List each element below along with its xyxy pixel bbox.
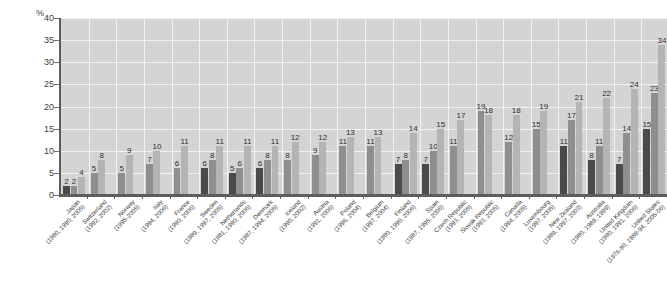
bar-value-label: 11 [216, 137, 224, 146]
category-name: Spain [398, 198, 440, 240]
bar-group: 611 [172, 18, 200, 195]
bar-group: 6811 [254, 18, 282, 195]
bar: 21 [576, 102, 583, 195]
category-years: (1980, 1990, 2006) [375, 203, 417, 245]
bar: 6 [201, 168, 208, 195]
bar-group: 1519 [531, 18, 559, 195]
bar-value-label: 12 [318, 133, 327, 142]
category-name: Norway [107, 198, 136, 227]
bar: 8 [209, 160, 216, 195]
bar: 11 [216, 146, 223, 195]
x-axis-category-label: Denmark(1987, 1994, 2005) [232, 198, 279, 245]
bar-groups: 2245859710611681156116811812912111311137… [61, 18, 667, 195]
category-name: United Kingdom [592, 198, 634, 240]
bar: 11 [560, 146, 567, 195]
bar-value-label: 17 [456, 111, 465, 120]
category-years: (1987, 1995, 2006) [403, 203, 445, 245]
x-axis-category-label: France(1990, 2006) [162, 198, 197, 233]
category-years: (1990, 2006) [166, 203, 196, 233]
bar: 11 [450, 146, 457, 195]
category-name: Australia [564, 198, 606, 240]
bar-group: 71015 [420, 18, 448, 195]
bar: 6 [174, 168, 181, 195]
category-years: (1996, 2004) [332, 203, 362, 233]
bar: 5 [229, 173, 236, 195]
x-axis-category-labels: Japan(1980, 1990, 2005)Switzerland(1992,… [0, 198, 667, 282]
bar-value-label: 11 [180, 137, 188, 146]
bar: 23 [651, 93, 658, 195]
bar: 18 [485, 115, 492, 195]
bar-group: 224 [61, 18, 89, 195]
bar-value-label: 8 [265, 151, 269, 160]
bar: 9 [312, 155, 319, 195]
bar: 11 [596, 146, 603, 195]
bar: 4 [78, 177, 85, 195]
x-axis-category-label: Luxembourg(1997, 2005) [521, 198, 556, 233]
bar: 15 [643, 129, 650, 195]
bar-value-label: 11 [243, 137, 251, 146]
category-years: (1989, 1997, 2005) [182, 203, 224, 245]
x-axis-category-label: Italy(1994, 2006) [134, 198, 169, 233]
y-axis-tick-label: 20 [44, 102, 54, 112]
category-years: (1991, 2006) [305, 203, 335, 233]
x-axis-category-label: Czech Republic(1993, 2005) [432, 198, 473, 239]
bar-value-label: 15 [436, 120, 445, 129]
y-axis-tick-labels: 0510152025303540 [28, 18, 54, 195]
bar-value-label: 8 [285, 151, 289, 160]
bar: 5 [91, 173, 98, 195]
bar: 24 [631, 89, 638, 195]
bar: 11 [181, 146, 188, 195]
bar: 12 [319, 142, 326, 195]
category-years: (1993, 2005) [437, 203, 473, 239]
bar: 14 [623, 133, 630, 195]
category-years: (1992, 2002) [84, 203, 114, 233]
bar: 8 [264, 160, 271, 195]
bar-value-label: 12 [291, 133, 300, 142]
bar: 7 [146, 164, 153, 195]
bar: 8 [98, 160, 105, 195]
bar: 34 [658, 45, 665, 195]
bar: 15 [533, 129, 540, 195]
bar-group: 6811 [199, 18, 227, 195]
bar-value-label: 34 [657, 36, 666, 45]
bar: 9 [126, 155, 133, 195]
bar-value-label: 7 [396, 155, 400, 164]
category-name: Belgium [355, 198, 385, 228]
bar-value-label: 2 [64, 177, 68, 186]
x-axis-category-label: Poland(1996, 2004) [327, 198, 362, 233]
bar-value-label: 9 [313, 146, 317, 155]
bar: 17 [457, 120, 464, 195]
x-axis-category-label: United States(1976-80, 1988-94, 2005-06) [600, 198, 666, 264]
bar-value-label: 6 [238, 159, 242, 168]
bar-group: 812 [282, 18, 310, 195]
y-axis-unit-label: % [36, 8, 44, 18]
bar-value-label: 6 [258, 159, 262, 168]
category-name: Canada [493, 198, 523, 228]
bar-value-label: 19 [539, 102, 548, 111]
bar-value-label: 5 [120, 164, 124, 173]
bar-value-label: 7 [424, 155, 428, 164]
x-axis-category-label: Australia(1980, 1989, 1999) [564, 198, 611, 245]
bar-chart: % 0510152025303540 224585971061168115611… [0, 0, 667, 282]
bar-value-label: 5 [92, 164, 96, 173]
bar-group: 1113 [337, 18, 365, 195]
bar: 11 [339, 146, 346, 195]
x-axis-category-label: Japan(1980, 1990, 2005) [39, 198, 86, 245]
bar-value-label: 11 [271, 137, 279, 146]
bar-value-label: 18 [512, 106, 521, 115]
bar-value-label: 21 [575, 93, 584, 102]
bar-value-label: 22 [602, 89, 611, 98]
category-name: Austria [300, 198, 330, 228]
bar: 13 [375, 137, 382, 195]
y-axis-tick-label: 10 [44, 146, 54, 156]
x-axis-category-label: Slovak Republic(1993, 2005) [459, 198, 500, 239]
bar-group: 7814 [393, 18, 421, 195]
category-name: Switzerland [79, 198, 109, 228]
bar-group: 71424 [614, 18, 642, 195]
x-axis-category-label: Spain(1987, 1995, 2006) [398, 198, 445, 245]
bar-group: 58 [89, 18, 117, 195]
category-years: (1980, 1989, 1999) [569, 203, 611, 245]
bar-group: 1113 [365, 18, 393, 195]
category-name: Iceland [272, 198, 302, 228]
bar: 8 [284, 160, 291, 195]
